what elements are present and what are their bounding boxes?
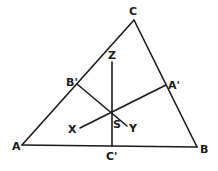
point-label-a: A <box>12 140 21 153</box>
point-label-a1: A' <box>168 79 180 92</box>
segment-x-a1 <box>80 85 166 128</box>
point-label-c1: C' <box>106 150 117 163</box>
point-label-s: S <box>113 118 121 131</box>
point-label-x: X <box>68 123 77 136</box>
labels-group: ABCA'B'C'SXYZ <box>12 5 208 163</box>
point-label-z: Z <box>108 49 116 62</box>
point-label-b: B <box>200 143 208 156</box>
segment-b-c <box>134 20 197 147</box>
point-label-y: Y <box>128 122 138 135</box>
point-label-b1: B' <box>66 76 78 89</box>
point-label-c: C <box>129 5 137 18</box>
diagram-svg: ABCA'B'C'SXYZ <box>0 0 218 171</box>
segment-a-b <box>22 145 197 147</box>
triangle-diagram: ABCA'B'C'SXYZ <box>0 0 218 171</box>
